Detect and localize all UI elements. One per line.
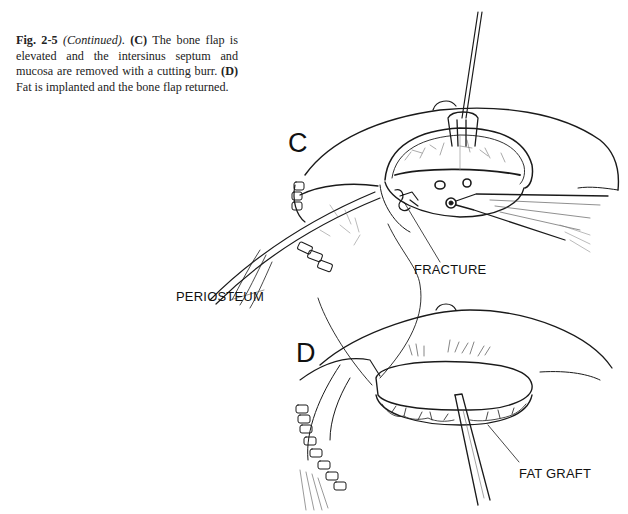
fat-graft-label: FAT GRAFT — [519, 466, 591, 481]
surgical-illustration — [0, 0, 628, 514]
panel-d-letter: D — [296, 338, 316, 369]
panel-c-letter: C — [288, 128, 308, 159]
fracture-label: FRACTURE — [414, 262, 486, 277]
periosteum-label: PERIOSTEUM — [176, 289, 264, 304]
